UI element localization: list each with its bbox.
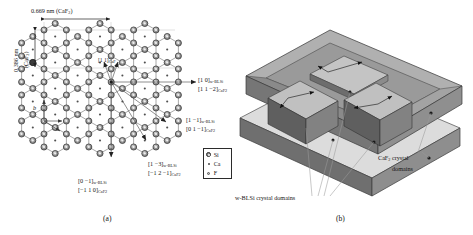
direction-label-right: [1 0]w-BLSi [1 1 −2]CaF2: [198, 76, 227, 93]
direction-label-lower-right-far: [1 −3]w-BLSi [−1 2 −1]CaF2: [148, 160, 181, 177]
legend-row-f: F: [206, 169, 229, 178]
lattice-vector-b-label: b: [33, 104, 36, 111]
direction-label-down: [0 −1]w-BLSi [−1 1 0]CaF2: [78, 177, 107, 194]
panel-b-label: (b): [336, 214, 345, 223]
legend-row-ca: Ca: [206, 159, 229, 168]
ca-atom-icon: [206, 161, 212, 167]
annotation-blsi-domains: w-BLSi crystal domains: [235, 194, 295, 201]
legend-row-si: Si: [206, 150, 229, 159]
atom-legend: Si Ca F: [203, 148, 232, 179]
annotation-caf2-domains-line1: CaF2 crystal: [378, 154, 408, 163]
direction-arrows: [104, 62, 196, 157]
legend-label-f: F: [214, 170, 217, 176]
f-atom-icon: [206, 170, 212, 176]
direction-label-lower-right: [1 −1]w-BLSi [0 1 −1]CaF2: [186, 116, 215, 133]
origin-direction-label: [1 1]CaF: [98, 57, 116, 65]
annotation-caf2-domains-line2: domains: [392, 165, 413, 172]
dimension-vertical-label: 0.386 nm: [12, 49, 19, 72]
panel-a-label: (a): [103, 214, 111, 223]
dimension-vertical-label-2: (CaF2): [22, 51, 31, 68]
legend-label-ca: Ca: [214, 161, 221, 167]
origin-point: [110, 80, 113, 83]
figure-container: 0.669 nm (CaF2) 0.386 nm (CaF2) b [1 1]C…: [0, 0, 473, 235]
si-atom-icon: [206, 152, 212, 158]
dimension-horizontal-label: 0.669 nm (CaF2): [31, 7, 72, 16]
panel-a-lattice-diagram: 0.669 nm (CaF2) 0.386 nm (CaF2) b [1 1]C…: [0, 0, 232, 235]
panel-b-3d-schematic: w-BLSi crystal domains CaF2 crystal doma…: [232, 0, 473, 235]
legend-label-si: Si: [214, 152, 219, 158]
lattice-vector-arrows: [44, 100, 62, 131]
